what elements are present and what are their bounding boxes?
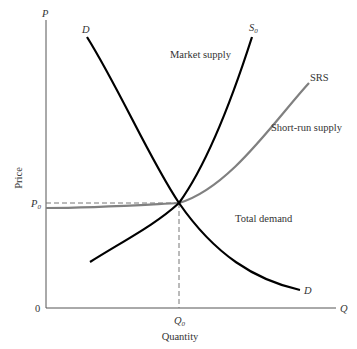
price-axis-title: Price xyxy=(13,167,24,189)
demand-bottom-label: D xyxy=(303,285,312,296)
total-demand-label: Total demand xyxy=(235,213,293,224)
market-supply-curve xyxy=(90,37,252,262)
demand-top-label: D xyxy=(81,24,90,35)
s0-label: S0 xyxy=(249,22,258,35)
origin-label: 0 xyxy=(35,303,40,314)
short-run-supply-curve xyxy=(46,83,309,208)
y-axis-symbol: P xyxy=(41,8,49,19)
supply-demand-diagram: P Q 0 P0 Q0 Price Quantity D D S0 SRS Ma… xyxy=(0,0,357,349)
q0-label: Q0 xyxy=(174,315,186,328)
demand-curve xyxy=(87,37,300,290)
srs-label: SRS xyxy=(310,72,329,83)
x-axis-symbol: Q xyxy=(340,303,348,314)
short-run-supply-label: Short-run supply xyxy=(271,122,343,133)
quantity-axis-title: Quantity xyxy=(162,331,199,342)
p0-label: P0 xyxy=(30,198,41,211)
market-supply-label: Market supply xyxy=(170,49,232,60)
